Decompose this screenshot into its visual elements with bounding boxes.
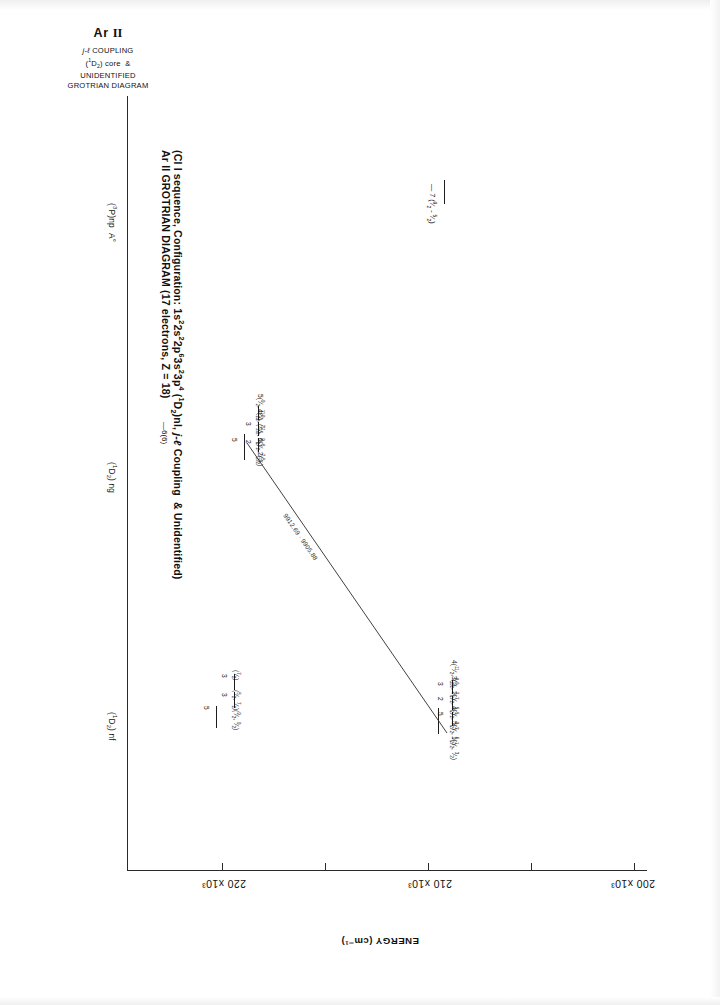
transition-wavelength-label: 9912.69 · 9905.88 xyxy=(282,512,319,561)
axis-tick-215 xyxy=(325,863,326,871)
energy-axis-line xyxy=(127,96,128,870)
level-tick xyxy=(244,434,245,460)
scan-edge-right xyxy=(710,0,720,1005)
species-numeral: II xyxy=(113,26,123,40)
header-line-unidentified: UNIDENTIFIED xyxy=(44,71,172,81)
scan-edge-bottom xyxy=(0,997,720,1005)
axis-tick-210 xyxy=(428,863,429,871)
level-tick xyxy=(444,180,445,204)
transition-lines xyxy=(0,0,720,1005)
axis-tick-200 xyxy=(634,863,635,871)
axis-tick-label-210: 210 x10³ xyxy=(402,878,458,890)
energy-axis-title: ENERGY (cm⁻¹) xyxy=(320,936,440,947)
axis-tick-220 xyxy=(222,863,223,871)
page-title: Ar II xyxy=(44,26,172,41)
level-tick xyxy=(216,706,217,728)
axis-baseline xyxy=(127,870,647,871)
header-line-core: (1D2) core & xyxy=(44,56,172,72)
chart-title-line-2: (Cl I sequence, Configuration: 1s22s22p6… xyxy=(169,150,186,580)
header-block: Ar II j-ℓ COUPLING (1D2) core & UNIDENTI… xyxy=(44,26,172,90)
axis-tick-label-200: 200 x10³ xyxy=(605,878,661,890)
header-line-grotrian: GROTRIAN DIAGRAM xyxy=(44,81,172,91)
axis-tick-205 xyxy=(531,863,532,871)
species-symbol: Ar xyxy=(94,26,109,40)
axis-tick-label-220: 220 x10³ xyxy=(196,878,252,890)
header-line-coupling: j-ℓ COUPLING xyxy=(44,46,172,56)
scan-edge-top xyxy=(0,0,720,10)
